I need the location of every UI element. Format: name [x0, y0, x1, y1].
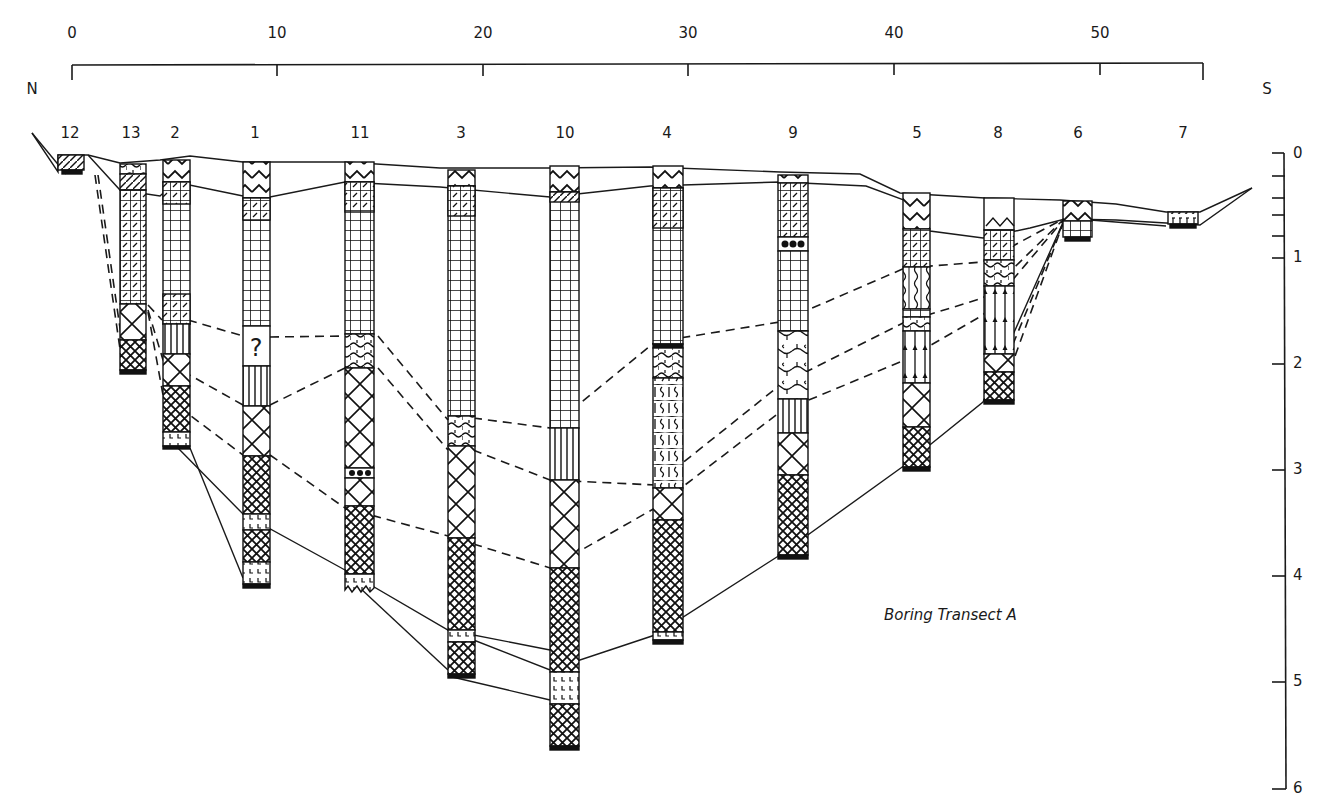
boring-label-8: 8	[993, 124, 1003, 142]
depth-tick-3: 3	[1293, 460, 1303, 478]
boring-label-3: 3	[456, 124, 466, 142]
depth-tick-2: 2	[1293, 354, 1303, 372]
depth-scale-bar	[1272, 153, 1286, 789]
depth-tick-4: 4	[1293, 566, 1303, 584]
depth-tick-6: 6	[1293, 779, 1303, 797]
scale-tick-50: 50	[1090, 24, 1109, 42]
boring-column-6	[1063, 201, 1092, 241]
boring-label-4: 4	[662, 124, 672, 142]
diagram-title: Boring Transect A	[884, 606, 1017, 624]
south-label: S	[1262, 80, 1272, 98]
boring-label-12: 12	[60, 124, 79, 142]
boring-label-13: 13	[121, 124, 140, 142]
boring-label-10: 10	[555, 124, 574, 142]
boring-label-7: 7	[1178, 124, 1188, 142]
boring-column-10	[550, 166, 579, 750]
depth-tick-5: 5	[1293, 672, 1303, 690]
boring-label-11: 11	[350, 124, 369, 142]
boring-label-5: 5	[912, 124, 922, 142]
boring-label-2: 2	[170, 124, 180, 142]
depth-tick-0: 0	[1293, 144, 1303, 162]
boring-column-5	[903, 193, 930, 471]
boring-label-9: 9	[788, 124, 798, 142]
boring-label-6: 6	[1073, 124, 1083, 142]
boring-column-12	[58, 155, 84, 174]
depth-tick-1: 1	[1293, 248, 1303, 266]
horizontal-scale-bar	[72, 63, 1203, 80]
boring-column-8	[984, 198, 1014, 404]
boring-column-7	[1168, 212, 1198, 228]
boring-column-2	[163, 160, 190, 449]
boring-column-11	[345, 162, 374, 592]
boring-label-1: 1	[250, 124, 260, 142]
boring-column-1	[243, 162, 270, 588]
scale-tick-0: 0	[67, 24, 77, 42]
transect-diagram: ?	[0, 0, 1325, 811]
unknown-marker: ?	[250, 334, 263, 362]
scale-tick-20: 20	[473, 24, 492, 42]
scale-tick-40: 40	[884, 24, 903, 42]
scale-tick-10: 10	[267, 24, 286, 42]
boring-column-13	[120, 164, 146, 374]
boring-column-9	[778, 175, 808, 559]
boring-column-4	[653, 166, 683, 644]
north-label: N	[26, 80, 37, 98]
scale-tick-30: 30	[678, 24, 697, 42]
boring-column-3	[448, 170, 475, 678]
